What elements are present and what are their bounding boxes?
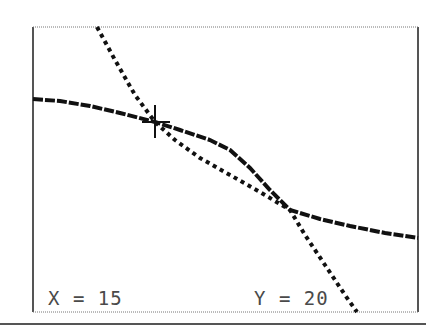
graph-plot <box>0 0 440 335</box>
bottom-divider <box>0 323 426 325</box>
x-coordinate-readout: X = 15 <box>48 289 123 308</box>
y-coordinate-readout: Y = 20 <box>254 289 329 308</box>
curve-steep <box>97 27 357 312</box>
graph-screen: X = 15 Y = 20 <box>0 0 440 335</box>
curve-s-shaped <box>33 99 418 238</box>
